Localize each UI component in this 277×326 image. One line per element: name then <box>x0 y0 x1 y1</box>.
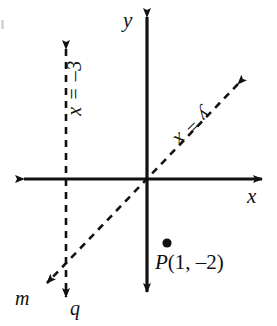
line-q-name-label: q <box>70 298 80 318</box>
line-m-name-label: m <box>15 288 29 308</box>
x-axis-label: x <box>247 186 256 207</box>
point-p-dot <box>162 238 171 247</box>
figure-canvas <box>0 0 277 326</box>
y-axis-label: y <box>123 10 132 31</box>
line-q-equation-label: x = –3 <box>64 60 84 115</box>
point-p-label: P(1, –2) <box>155 252 224 273</box>
point-p-coordinates: (1, –2) <box>168 250 224 274</box>
point-p-name: P <box>155 250 168 274</box>
point-p-marker <box>162 238 171 247</box>
coordinate-plane-figure: y x x = –3 y = x m q P(1, –2) <box>0 0 277 326</box>
